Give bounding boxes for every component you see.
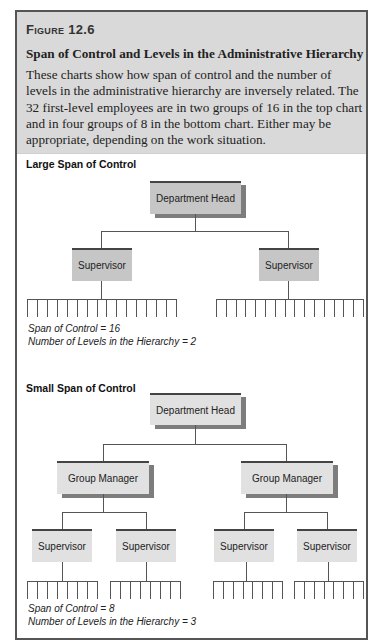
employee-group [27,299,177,317]
employee-combs [0,0,378,644]
employee-group [213,581,283,599]
employee-group [294,581,364,599]
employee-group [27,581,98,599]
employee-group [110,581,181,599]
employee-group [216,299,364,317]
